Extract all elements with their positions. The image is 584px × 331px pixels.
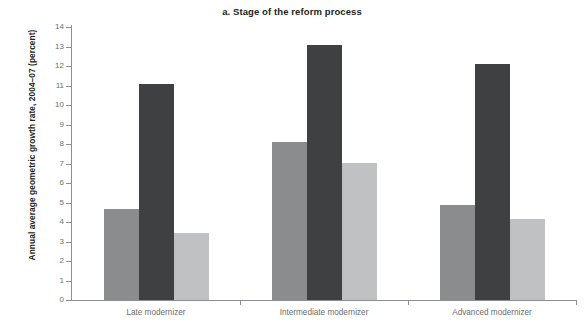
x-axis-tick [240, 300, 241, 305]
y-axis-tick-label: 9 [42, 121, 64, 129]
y-axis-tick-label: 7 [42, 160, 64, 168]
x-axis-category-label: Advanced modernizer [408, 308, 576, 317]
y-axis-tick-label: 8 [42, 140, 64, 148]
bar [440, 205, 475, 300]
y-axis-tick-label: 13 [42, 43, 64, 51]
y-axis-title: Annual average geometric growth rate, 20… [27, 15, 37, 275]
y-axis-tick-label: 4 [42, 218, 64, 226]
bar [510, 219, 545, 300]
x-axis-category-label: Late modernizer [72, 308, 240, 317]
y-axis-tick-label: 3 [42, 238, 64, 246]
x-axis-line [71, 300, 576, 301]
x-axis-tick [576, 300, 577, 305]
bar [174, 233, 209, 300]
bar [272, 142, 307, 300]
y-axis-tick-label: 0 [42, 296, 64, 304]
bar [104, 209, 139, 300]
x-axis-tick [408, 300, 409, 305]
bar [475, 64, 510, 300]
y-axis-tick-label: 11 [42, 82, 64, 90]
y-axis-tick-label: 6 [42, 179, 64, 187]
y-axis-tick-label: 1 [42, 277, 64, 285]
bar [139, 84, 174, 300]
bar [307, 45, 342, 300]
y-axis-tick-label: 2 [42, 257, 64, 265]
y-axis-tick-label: 12 [42, 62, 64, 70]
bar [342, 163, 377, 300]
y-axis-tick [66, 300, 72, 301]
x-axis-category-label: Intermediate modernizer [240, 308, 408, 317]
y-axis-tick-label: 10 [42, 101, 64, 109]
y-axis-tick-label: 14 [42, 23, 64, 31]
chart-figure: a. Stage of the reform process Annual av… [0, 0, 584, 331]
chart-title: a. Stage of the reform process [0, 6, 584, 17]
plot-area [72, 27, 576, 300]
y-axis-tick-label: 5 [42, 199, 64, 207]
